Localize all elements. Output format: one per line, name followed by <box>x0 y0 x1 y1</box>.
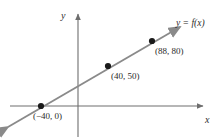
point-88-80-dot <box>149 38 155 44</box>
point-40-50-label: (40, 50) <box>111 72 140 81</box>
graph-figure: y x y = f(x) (88, 80) (40, 50) (−40, 0) <box>0 0 220 138</box>
point-neg40-0-label: (−40, 0) <box>33 112 62 121</box>
y-axis-label: y <box>61 11 65 21</box>
x-axis-label: x <box>205 115 209 125</box>
point-neg40-0-dot <box>38 103 44 109</box>
point-88-80-label: (88, 80) <box>155 47 184 56</box>
point-40-50-dot <box>105 63 111 69</box>
function-label: y = f(x) <box>176 19 205 29</box>
